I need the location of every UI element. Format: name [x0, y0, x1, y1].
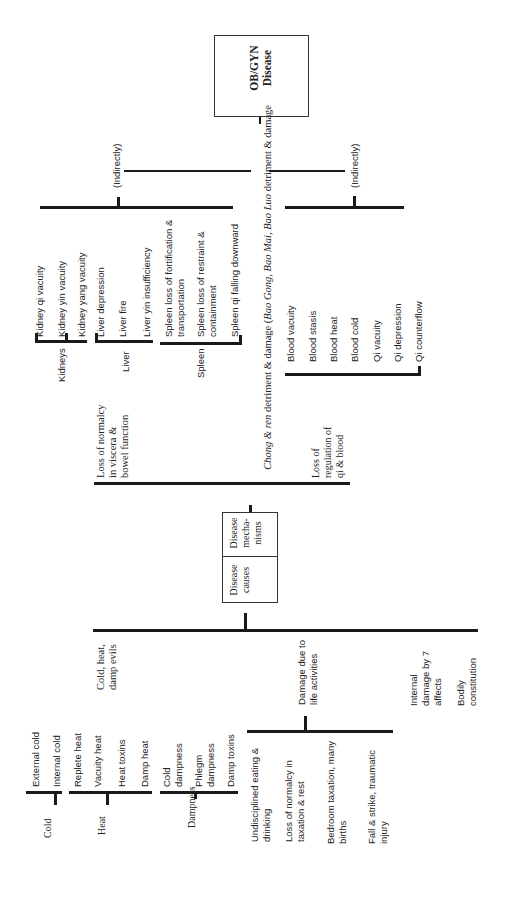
qi-blood-mechanism-label: Loss of regulation of qi & blood [310, 427, 346, 478]
kidney-item-2: Kidney yin vacuity [56, 261, 68, 337]
trunk-label-prefix: Chong & ren [262, 415, 273, 470]
qi-blood-item-1: Blood vacuity [285, 305, 297, 362]
life-activities-tick [304, 716, 307, 730]
cold-item-2: Internal cold [51, 735, 63, 787]
disease-causes-label: Disease causes [228, 560, 252, 600]
heat-item-4: Damp heat [139, 741, 151, 787]
dampness-label: Dampness [186, 786, 198, 828]
viscera-mechanism-label: Loss of normalcy in viscera & bowel func… [95, 405, 131, 479]
trunk-label-text1: detriment & damage ( [262, 320, 273, 415]
life-item-2: Loss of normalcy in taxation & rest [283, 760, 307, 842]
heat-item-3: Heat toxins [116, 739, 128, 787]
bodily-constitution-label: Bodily constitution [455, 658, 479, 706]
qi-blood-bracket-right [418, 366, 421, 375]
qi-blood-item-4: Blood cold [349, 318, 361, 362]
liver-bracket-left [95, 333, 98, 342]
kidney-item-3: Kidney yang vacuity [76, 253, 88, 338]
causes-tick [244, 613, 247, 629]
indirect-right-upper-line [269, 170, 345, 172]
indirect-left-label: (Indirectly) [111, 144, 123, 188]
dampness-bracket [160, 791, 238, 794]
liver-label: Liver [120, 351, 132, 372]
life-activities-label: Damage due to life activities [296, 640, 320, 705]
spleen-item-2: Spleen loss of restraint & containment [195, 231, 219, 337]
spleen-bracket-right [239, 335, 242, 344]
dampness-item-3: Damp toxins [225, 734, 237, 787]
qi-blood-item-5: Qi vacuity [371, 320, 383, 362]
spleen-item-1: Spleen loss of fortification & transport… [163, 220, 187, 337]
spleen-item-3: Spleen qi falling downward [229, 224, 241, 337]
causes-bar [93, 629, 478, 632]
life-activities-bar [247, 730, 393, 733]
spleen-label: Spleen [195, 348, 207, 378]
heat-bracket [69, 791, 152, 794]
evils-label: Cold, heat, damp evils [95, 644, 119, 690]
mechanisms-bar [94, 482, 350, 485]
root-label: OB/GYN Disease [248, 38, 274, 98]
heat-tick [106, 793, 109, 805]
cold-item-1: External cold [30, 732, 42, 787]
kidney-item-1: Kidney qi vacuity [34, 266, 46, 337]
trunk-label-text2: detriment & damage [262, 105, 273, 194]
kidney-bracket [35, 340, 87, 343]
life-item-4: Fall & strike, traumatic injury [366, 750, 390, 844]
kidneys-label: Kidneys [56, 348, 68, 382]
heat-item-2: Vacuity heat [92, 735, 104, 787]
qi-blood-item-3: Blood heat [328, 317, 340, 362]
indirect-left-upper-line [124, 170, 251, 172]
viscera-top-line [40, 206, 233, 209]
heat-label: Heat [96, 816, 108, 835]
trunk-label: Chong & ren detriment & damage (Bao Gong… [250, 105, 274, 475]
heat-item-1: Replete heat [72, 733, 84, 787]
qi-blood-item-7: Qi counterflow [413, 301, 425, 362]
mechanisms-causes-divider [222, 556, 278, 557]
kidney-bracket-left [35, 333, 38, 342]
cold-tick [54, 793, 57, 805]
life-item-1: Undisciplined eating & drinking [249, 748, 273, 842]
liver-bracket [95, 340, 153, 343]
spleen-bracket [160, 342, 242, 345]
dampness-item-2: Phlegm dampness [193, 743, 217, 787]
dampness-item-1: Cold dampness [161, 743, 185, 787]
life-item-3: Bedroom taxation, many births [325, 741, 349, 844]
qi-blood-bracket [285, 373, 421, 376]
liver-item-3: Liver yin insufficiency [141, 247, 153, 337]
seven-affects-label: Internal damage by 7 affects [408, 651, 444, 706]
qi-blood-item-2: Blood stasis [307, 311, 319, 362]
trunk-label-italic: Bao Gong, Bao Mai, Bao Luo [262, 194, 273, 320]
indirect-right-label: (Indirectly) [349, 144, 361, 188]
kidney-bracket-mid [65, 333, 68, 342]
liver-item-1: Liver depression [95, 267, 107, 337]
qi-blood-item-6: Qi depression [392, 303, 404, 362]
disease-mechanisms-label: Disease mecha- nisms [228, 513, 264, 553]
cold-label: Cold [42, 819, 54, 838]
qi-blood-top-line [285, 206, 404, 209]
liver-item-2: Liver fire [117, 301, 129, 337]
